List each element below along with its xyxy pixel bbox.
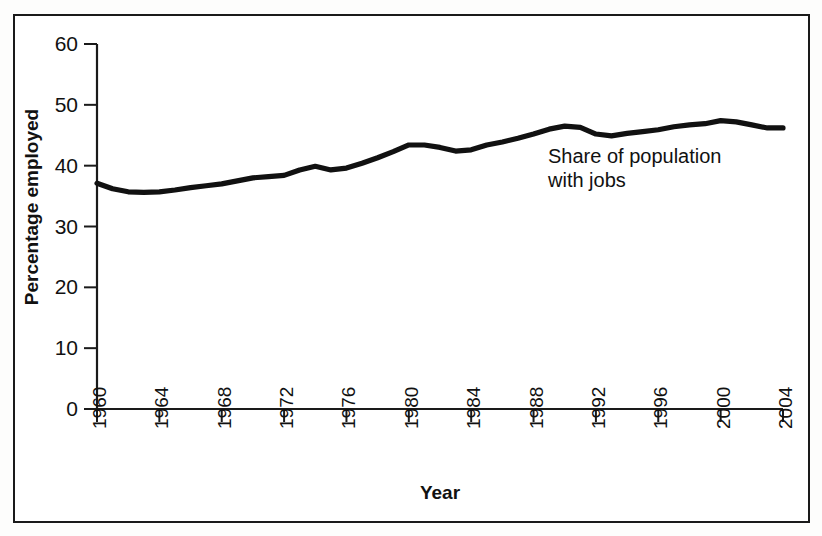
x-axis-title: Year bbox=[390, 482, 490, 504]
x-tick-label: 1972 bbox=[277, 387, 296, 429]
x-tick-label: 1960 bbox=[90, 387, 109, 429]
y-tick-label: 50 bbox=[32, 94, 78, 115]
y-tick-label: 10 bbox=[32, 337, 78, 358]
x-tick-label: 1964 bbox=[152, 387, 171, 429]
x-tick-label: 1976 bbox=[339, 387, 358, 429]
x-tick-label: 2004 bbox=[776, 387, 795, 429]
scan-page-background: Percentage employed Year Share of popula… bbox=[0, 0, 822, 536]
x-tick-label: 1996 bbox=[651, 387, 670, 429]
y-tick-label: 60 bbox=[32, 33, 78, 54]
x-tick-label: 1992 bbox=[589, 387, 608, 429]
y-tick-label: 0 bbox=[32, 398, 78, 419]
y-tick-label: 20 bbox=[32, 276, 78, 297]
y-tick-label: 30 bbox=[32, 216, 78, 237]
x-tick-label: 2000 bbox=[714, 387, 733, 429]
x-tick-label: 1984 bbox=[464, 387, 483, 429]
x-tick-label: 1988 bbox=[527, 387, 546, 429]
x-tick-label: 1980 bbox=[402, 387, 421, 429]
series-annotation-label: Share of population with jobs bbox=[548, 145, 721, 192]
y-tick-label: 40 bbox=[32, 155, 78, 176]
x-tick-label: 1968 bbox=[215, 387, 234, 429]
figure-frame-border bbox=[13, 14, 810, 523]
